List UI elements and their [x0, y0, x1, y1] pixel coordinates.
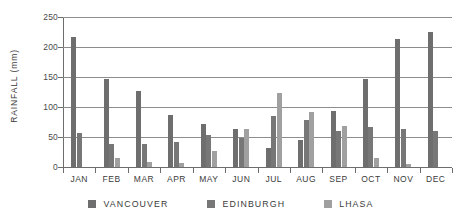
- y-axis-title: RAINFALL (mm): [0, 0, 28, 172]
- x-axis-tick-mark: [160, 168, 161, 173]
- y-axis-title-text: RAINFALL (mm): [9, 49, 19, 123]
- x-axis-tick-mark: [258, 168, 259, 173]
- x-axis-tick-label: NOV: [393, 174, 413, 184]
- bar: [331, 111, 336, 167]
- bar: [206, 135, 211, 167]
- x-axis-tick-label: JUL: [265, 174, 282, 184]
- x-axis-tick-label: OCT: [361, 174, 380, 184]
- x-axis-tick-mark: [355, 168, 356, 173]
- bar-group: [420, 17, 452, 167]
- bar: [395, 39, 400, 167]
- chart-legend: VANCOUVEREDINBURGHLHASA: [0, 196, 461, 212]
- bar-group: [95, 17, 127, 167]
- legend-label: LHASA: [339, 199, 373, 209]
- x-axis-tick-marks: [63, 168, 452, 173]
- legend-swatch-icon: [87, 199, 97, 209]
- bar: [277, 93, 282, 167]
- bar: [244, 129, 249, 167]
- x-axis-tick-label: AUG: [296, 174, 316, 184]
- plot-area: [63, 17, 452, 167]
- legend-swatch-icon: [206, 199, 216, 209]
- bar-group: [160, 17, 192, 167]
- bar: [239, 138, 244, 167]
- x-axis-tick-label: FEB: [103, 174, 121, 184]
- x-axis-tick-label: APR: [167, 174, 186, 184]
- bar-group: [225, 17, 257, 167]
- bar: [336, 131, 341, 167]
- bar: [147, 162, 152, 167]
- bar-group: [258, 17, 290, 167]
- bar: [406, 164, 411, 167]
- bar: [115, 158, 120, 167]
- bar: [298, 140, 303, 167]
- x-axis-tick-label: JUN: [232, 174, 250, 184]
- x-axis-tick-mark: [452, 168, 453, 173]
- bar: [401, 129, 406, 167]
- bar: [233, 129, 238, 167]
- bar: [368, 127, 373, 167]
- bar: [179, 163, 184, 167]
- x-axis-tick-label: MAR: [134, 174, 154, 184]
- bar: [363, 79, 368, 167]
- legend-item[interactable]: EDINBURGH: [206, 199, 285, 209]
- bar-group: [387, 17, 419, 167]
- x-axis-tick-mark: [95, 168, 96, 173]
- x-axis-tick-mark: [322, 168, 323, 173]
- legend-swatch-icon: [323, 199, 333, 209]
- bar: [374, 158, 379, 167]
- bar-group: [290, 17, 322, 167]
- bar: [271, 116, 276, 167]
- rainfall-bar-chart: RAINFALL (mm) 050100150200250 JANFEBMARA…: [0, 0, 461, 222]
- legend-item[interactable]: VANCOUVER: [87, 199, 168, 209]
- bar: [142, 144, 147, 167]
- bar: [174, 142, 179, 167]
- bar: [428, 32, 433, 167]
- bar: [266, 148, 271, 167]
- x-axis-tick-labels: JANFEBMARAPRMAYJUNJULAUGSEPOCTNOVDEC: [63, 174, 452, 188]
- bar: [309, 112, 314, 167]
- legend-label: VANCOUVER: [103, 199, 168, 209]
- bar: [77, 133, 82, 167]
- x-axis-tick-mark: [225, 168, 226, 173]
- x-axis-tick-label: SEP: [329, 174, 348, 184]
- bar: [212, 151, 217, 167]
- x-axis-tick-mark: [63, 168, 64, 173]
- x-axis-tick-mark: [387, 168, 388, 173]
- x-axis-tick-mark: [290, 168, 291, 173]
- bar: [304, 120, 309, 167]
- legend-label: EDINBURGH: [222, 199, 285, 209]
- bar-group: [355, 17, 387, 167]
- bar: [168, 115, 173, 167]
- x-axis-tick-mark: [420, 168, 421, 173]
- bar: [433, 131, 438, 167]
- legend-item[interactable]: LHASA: [323, 199, 373, 209]
- x-axis-tick-label: JAN: [70, 174, 88, 184]
- bar: [104, 79, 109, 167]
- bar-group: [128, 17, 160, 167]
- x-axis-tick-label: DEC: [426, 174, 445, 184]
- bar: [342, 126, 347, 167]
- bar-group: [63, 17, 95, 167]
- x-axis-tick-label: MAY: [199, 174, 218, 184]
- x-axis-tick-mark: [193, 168, 194, 173]
- bar-group: [193, 17, 225, 167]
- bar: [136, 91, 141, 167]
- bar-group: [322, 17, 354, 167]
- bar: [201, 124, 206, 167]
- bar: [109, 144, 114, 167]
- x-axis-tick-mark: [128, 168, 129, 173]
- bar: [71, 37, 76, 167]
